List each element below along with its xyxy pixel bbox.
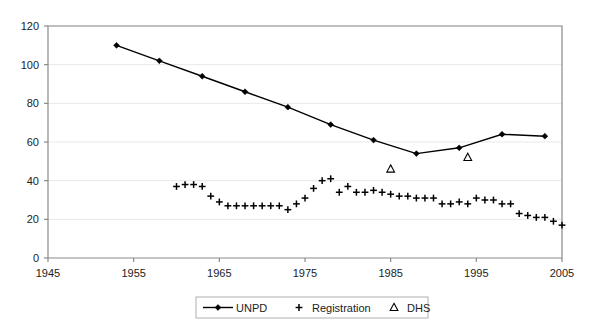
y-tick-label-40: 40 [27,175,39,187]
registration-marker [362,189,369,196]
registration-marker [319,177,326,184]
registration-marker [267,202,274,209]
chart-canvas: 020406080100120 194519551965197519851995… [0,0,598,329]
series-unpd [114,42,548,156]
registration-marker [499,200,506,207]
unpd-marker [114,42,120,48]
unpd-marker [456,145,462,151]
registration-marker [173,183,180,190]
unpd-line [117,45,545,153]
x-tick-label-1975: 1975 [293,267,317,279]
registration-marker [396,193,403,200]
registration-marker [233,202,240,209]
unpd-marker [328,122,334,128]
unpd-marker [499,131,505,137]
dhs-marker [387,165,395,172]
registration-marker [439,200,446,207]
registration-marker [302,195,309,202]
unpd-marker [542,133,548,139]
x-tick-label-2005: 2005 [550,267,574,279]
y-tick-label-80: 80 [27,97,39,109]
grid-lines [48,26,562,219]
series-dhs [387,153,472,172]
x-tick-label-1955: 1955 [121,267,145,279]
registration-marker [447,200,454,207]
dhs-marker [464,153,472,160]
registration-marker [284,206,291,213]
registration-marker [404,193,411,200]
y-tick-label-20: 20 [27,213,39,225]
x-tick-label-1995: 1995 [464,267,488,279]
y-tick-label-120: 120 [21,20,39,32]
registration-marker [464,200,471,207]
registration-marker [344,183,351,190]
registration-marker [259,202,266,209]
axis-frame [44,26,562,262]
registration-marker [490,197,497,204]
registration-marker [387,191,394,198]
registration-marker [559,222,566,229]
legend-label-registration: Registration [312,302,371,314]
x-tick-label-1965: 1965 [207,267,231,279]
y-tick-label-100: 100 [21,59,39,71]
unpd-marker [413,151,419,157]
x-tick-label-1985: 1985 [378,267,402,279]
y-tick-label-0: 0 [33,252,39,264]
registration-marker [422,195,429,202]
unpd-marker [199,73,205,79]
chart-legend: UNPDRegistrationDHS [196,297,430,318]
registration-marker [216,199,223,206]
registration-marker [336,189,343,196]
x-tick-label-1945: 1945 [36,267,60,279]
registration-marker [310,185,317,192]
registration-marker [379,189,386,196]
unpd-marker [242,89,248,95]
y-axis-tick-labels: 020406080100120 [21,20,39,264]
registration-marker [199,183,206,190]
x-axis-tick-labels: 1945195519651975198519952005 [36,267,574,279]
y-tick-label-60: 60 [27,136,39,148]
legend-label-unpd: UNPD [236,302,267,314]
registration-marker [242,202,249,209]
registration-marker [353,189,360,196]
registration-marker [516,210,523,217]
registration-marker [413,195,420,202]
registration-marker [430,195,437,202]
registration-marker [524,212,531,219]
registration-marker [456,199,463,206]
unpd-marker [285,104,291,110]
registration-marker [507,200,514,207]
registration-marker [182,181,189,188]
registration-marker [250,202,257,209]
registration-marker [276,202,283,209]
legend-label-dhs: DHS [407,302,430,314]
registration-marker [473,195,480,202]
series-registration [173,175,565,228]
registration-marker [293,200,300,207]
registration-marker [207,193,214,200]
registration-marker [370,187,377,194]
unpd-marker [156,58,162,64]
registration-marker [225,202,232,209]
registration-marker [482,197,489,204]
chart-container: 020406080100120 194519551965197519851995… [0,0,598,329]
registration-marker [190,181,197,188]
